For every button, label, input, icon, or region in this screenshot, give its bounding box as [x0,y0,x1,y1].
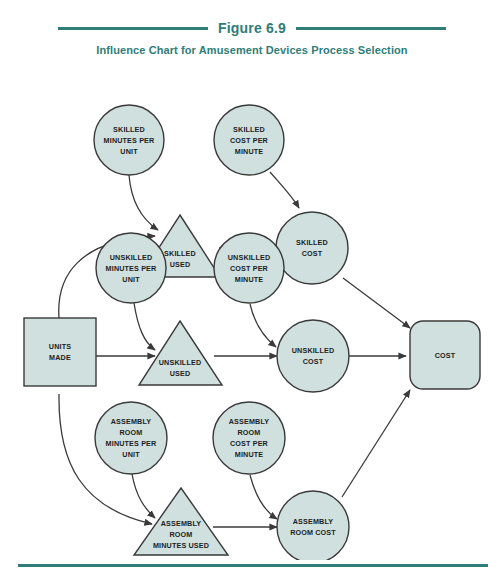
node-shape-circle [277,491,349,560]
node-shape-circle [94,105,164,175]
node-skilled-cost-per-minute[interactable]: SKILLED COST PER MINUTE [214,105,284,175]
node-shape-circle [213,402,285,474]
node-shape-rounded-rectangle [410,321,480,389]
node-shape-circle [276,212,348,284]
node-shape-circle [95,402,167,474]
edge-unskilled-min-per-unit-to-unskilled-used [134,303,155,350]
header-rule-left [58,27,208,30]
figure-footer-rule [18,564,488,567]
node-skilled-cost[interactable]: SKILLED COST [276,212,348,284]
node-assembly-room-cost-per-minute[interactable]: ASSEMBLY ROOM COST PER MINUTE [213,402,285,474]
header-rule-right [296,27,446,30]
edge-skilled-min-per-unit-to-skilled-used [129,175,158,230]
node-unskilled-cost[interactable]: UNSKILLED COST [277,320,349,392]
node-shape-rectangle [24,318,96,386]
node-shape-circle [277,320,349,392]
edge-skilled-cost-to-cost [343,278,410,328]
edge-assembly-min-per-unit-to-assembly-min-used [132,474,155,518]
node-cost[interactable]: COST [410,321,480,389]
node-units-made[interactable]: UNITS MADE [24,318,96,386]
node-shape-circle [96,233,166,303]
node-unskilled-minutes-per-unit[interactable]: UNSKILLED MINUTES PER UNIT [96,233,166,303]
edge-assembly-room-cost-to-cost [342,390,410,497]
node-unskilled-used[interactable]: UNSKILLED USED [139,321,222,385]
node-shape-triangle [139,321,222,385]
node-assembly-room-minutes-per-unit[interactable]: ASSEMBLY ROOM MINUTES PER UNIT [95,402,167,474]
edge-assembly-cost-per-minute-to-assembly-room-cost [250,475,277,519]
node-shape-triangle [134,488,228,555]
node-unskilled-cost-per-minute[interactable]: UNSKILLED COST PER MINUTE [214,233,284,303]
node-assembly-room-cost[interactable]: ASSEMBLY ROOM COST [277,491,349,560]
figure-number: Figure 6.9 [218,20,286,36]
figure-title: Influence Chart for Amusement Devices Pr… [0,44,504,56]
edge-unskilled-cost-per-minute-to-unskilled-cost [250,304,276,347]
edge-skilled-cost-per-minute-to-skilled-cost [270,172,299,208]
figure-header: Figure 6.9 [0,18,504,38]
node-shape-circle [214,105,284,175]
influence-chart-diagram: SKILLED MINUTES PER UNIT SKILLED COST PE… [0,60,504,560]
edge-layer [59,172,410,527]
node-shape-circle [214,233,284,303]
node-assembly-room-minutes-used[interactable]: ASSEMBLY ROOM MINUTES USED [134,488,228,555]
node-skilled-minutes-per-unit[interactable]: SKILLED MINUTES PER UNIT [94,105,164,175]
